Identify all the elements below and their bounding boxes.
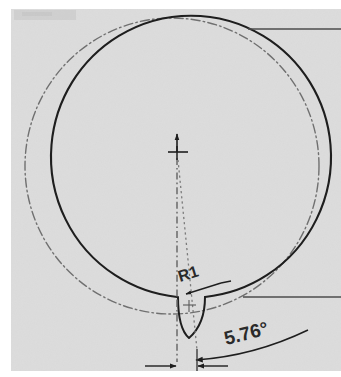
drawing-svg: R1 5.76°	[0, 0, 341, 377]
scan-artifact-smudge	[14, 10, 76, 20]
drawing-field	[11, 9, 341, 371]
technical-drawing-canvas: R1 5.76°	[0, 0, 341, 377]
